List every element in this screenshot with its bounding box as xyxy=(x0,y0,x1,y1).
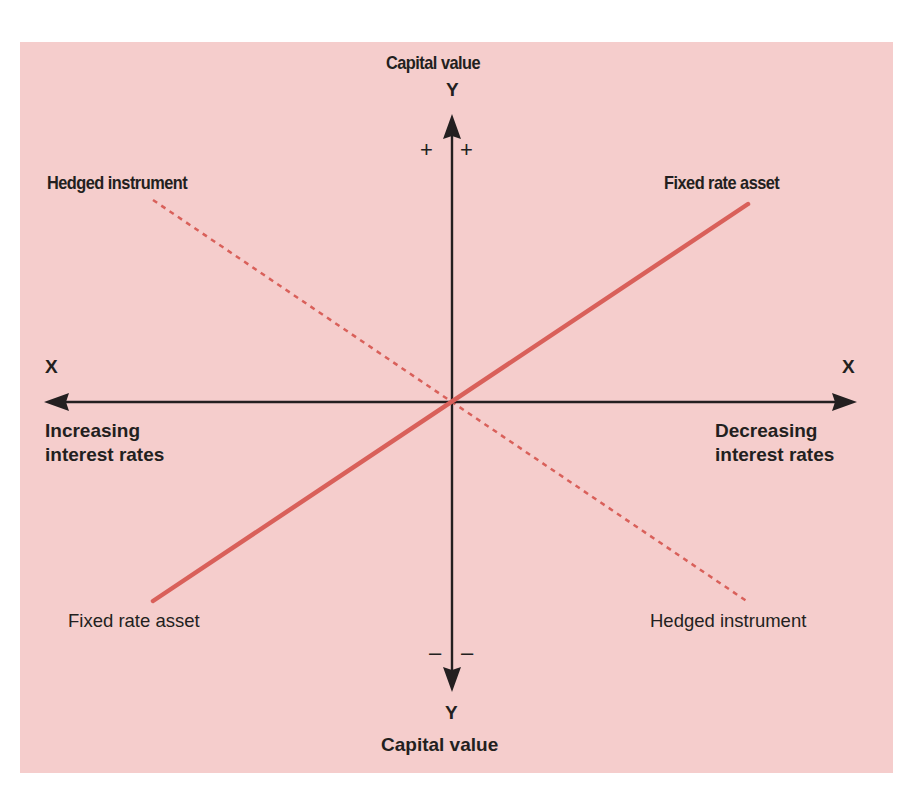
plus-left-sign: + xyxy=(420,137,433,163)
minus-left-sign: – xyxy=(429,640,441,666)
x-axis-left-label: Increasing interest rates xyxy=(45,419,164,467)
x-axis-left-label-line2: interest rates xyxy=(45,443,164,467)
arrow-up-icon xyxy=(443,114,461,139)
x-axis-right-letter: X xyxy=(842,356,854,378)
x-axis-left-letter: X xyxy=(45,356,57,378)
fixed-rate-asset-label-top: Fixed rate asset xyxy=(664,172,779,194)
hedged-instrument-label-top: Hedged instrument xyxy=(47,172,187,194)
x-axis-right-label-line1: Decreasing xyxy=(715,419,834,443)
y-axis-bottom-title: Capital value xyxy=(381,733,498,757)
hedged-instrument-label-bottom: Hedged instrument xyxy=(650,610,806,632)
plus-right-sign: + xyxy=(460,137,473,163)
hedge-diagram xyxy=(0,0,913,797)
arrow-left-icon xyxy=(44,393,69,411)
fixed-rate-asset-label-bottom: Fixed rate asset xyxy=(68,610,200,632)
x-axis-left-label-line1: Increasing xyxy=(45,419,164,443)
x-axis-right-label: Decreasing interest rates xyxy=(715,419,834,467)
y-axis-top-title: Capital value xyxy=(386,52,480,74)
y-axis-bottom-letter: Y xyxy=(445,702,457,724)
y-axis-top-letter: Y xyxy=(446,79,458,101)
minus-right-sign: – xyxy=(461,640,473,666)
arrow-right-icon xyxy=(832,393,857,411)
x-axis-right-label-line2: interest rates xyxy=(715,443,834,467)
arrow-down-icon xyxy=(443,667,461,692)
